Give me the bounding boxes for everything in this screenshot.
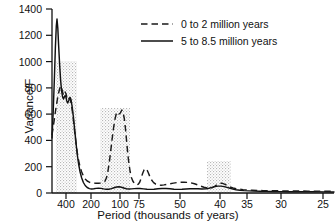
y-tick-label-200: 200 [12,161,42,173]
chart-figure: 0 200 400 600 800 1000 1200 1400 400 200… [0,0,336,224]
y-tick-label-1400: 1400 [6,3,42,15]
legend-entry-5-to-8-5-million: 5 to 8.5 million years [140,34,277,48]
shaded-band-100kyr [100,108,130,193]
legend-swatch-solid-icon [140,36,174,46]
y-axis-ticks [46,9,52,193]
legend-label-0-to-2-million: 0 to 2 million years [181,18,269,30]
y-axis-title: Variance/F [23,51,35,161]
x-axis-title: Period (thousands of years) [0,209,336,221]
legend-swatch-dashed-icon [140,19,174,29]
legend-entry-0-to-2-million: 0 to 2 million years [140,17,269,31]
y-tick-label-0: 0 [12,187,42,199]
series-line-dashed [52,86,334,191]
y-tick-label-1200: 1200 [6,29,42,41]
legend-label-5-to-8-5-million: 5 to 8.5 million years [181,35,277,47]
